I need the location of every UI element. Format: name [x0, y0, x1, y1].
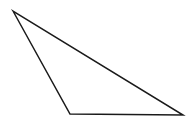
triangle-shape — [13, 11, 183, 115]
diagram-canvas — [0, 0, 196, 129]
